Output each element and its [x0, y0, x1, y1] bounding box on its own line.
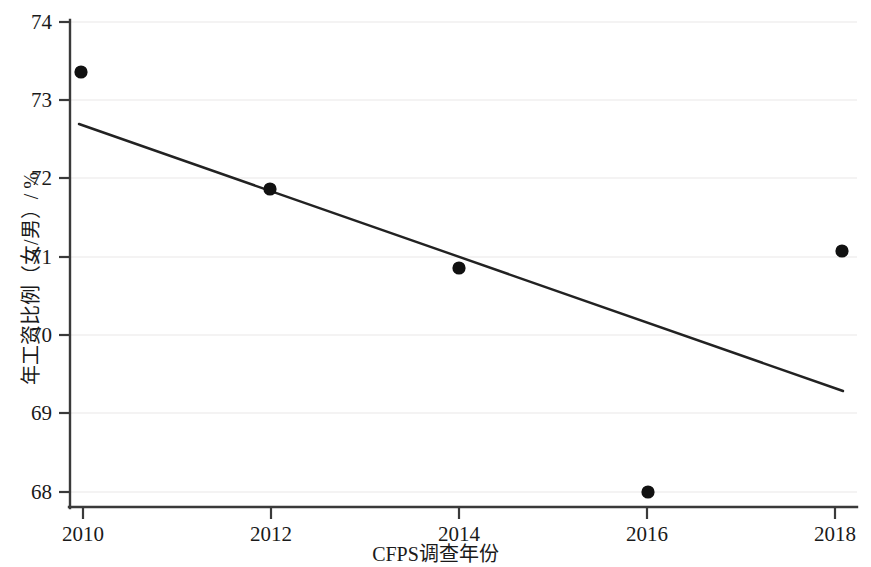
data-point-2012 [263, 182, 276, 195]
y-tick-label-74: 74 [14, 12, 52, 33]
y-axis-title: 年工资比例（女/男）/ % [15, 99, 44, 459]
x-axis-ticks [83, 507, 835, 519]
data-point-2014 [452, 261, 465, 274]
y-tick-label-68: 68 [14, 482, 52, 503]
gridlines-horizontal [70, 22, 857, 492]
x-axis-title: CFPS调查年份 [0, 538, 871, 567]
data-point-2016 [641, 485, 654, 498]
data-point-2010 [74, 65, 87, 78]
y-axis-ticks [59, 22, 70, 492]
chart-figure: 74 73 72 71 70 69 68 2010 2012 2014 2016… [0, 0, 871, 567]
data-points [74, 65, 848, 498]
data-point-2018 [835, 244, 848, 257]
chart-plot-svg [0, 0, 871, 567]
